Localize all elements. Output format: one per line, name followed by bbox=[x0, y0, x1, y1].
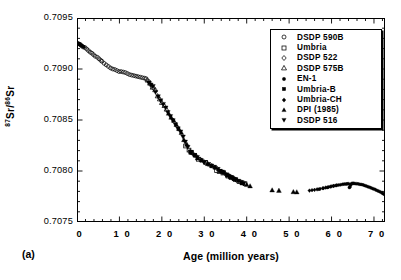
legend-item-0[interactable]: DSDP 590B bbox=[271, 32, 381, 42]
legend-label: Umbria-B bbox=[291, 85, 336, 94]
legend-label: DSDP 522 bbox=[291, 53, 338, 62]
legend-label: EN-1 bbox=[291, 74, 317, 83]
legend: DSDP 590BUmbriaDSDP 522DSDP 575BEN-1Umbr… bbox=[270, 29, 382, 129]
legend-marker-square-open-icon bbox=[277, 43, 291, 53]
legend-marker-square-filled-icon bbox=[277, 84, 291, 94]
panel-label: (a) bbox=[22, 248, 35, 260]
x-axis-label: Age (million years) bbox=[77, 250, 385, 262]
legend-item-7[interactable]: DPI (1985) bbox=[271, 105, 381, 115]
legend-item-5[interactable]: Umbria-B bbox=[271, 84, 381, 94]
series-6 bbox=[308, 183, 338, 192]
x-tick-label: 6 0 bbox=[326, 228, 344, 239]
data-point bbox=[383, 193, 385, 196]
legend-marker-diamond-open-icon bbox=[277, 53, 291, 63]
x-tick-label: 2 0 bbox=[156, 228, 174, 239]
series-0 bbox=[77, 42, 148, 81]
legend-item-8[interactable]: DSDP 516 bbox=[271, 115, 381, 125]
y-tick-label: 0.7080 bbox=[44, 165, 73, 175]
legend-marker-circle-open-icon bbox=[277, 32, 291, 42]
y-axis-label-sup-86: 86 bbox=[4, 97, 11, 105]
legend-item-1[interactable]: Umbria bbox=[271, 42, 381, 52]
x-tick-label: 4 0 bbox=[241, 228, 259, 239]
legend-label: Umbria-CH bbox=[291, 95, 342, 104]
legend-marker-diamond-filled-icon bbox=[277, 95, 291, 105]
y-axis-label-tail: Sr bbox=[5, 86, 16, 97]
legend-item-3[interactable]: DSDP 575B bbox=[271, 63, 381, 73]
x-tick-label: 3 0 bbox=[198, 228, 216, 239]
data-point bbox=[82, 45, 85, 48]
legend-item-4[interactable]: EN-1 bbox=[271, 74, 381, 84]
x-tick-label: 0 bbox=[77, 228, 84, 239]
y-tick-label: 0.7095 bbox=[44, 12, 73, 22]
series-8 bbox=[146, 81, 246, 186]
legend-marker-circle-filled-icon bbox=[277, 74, 291, 84]
y-axis-label-sup-87: 87 bbox=[4, 119, 11, 127]
legend-marker-triangle-up-filled-icon bbox=[277, 105, 291, 115]
y-axis-label-mid: Sr/ bbox=[5, 105, 16, 119]
legend-label: DSDP 516 bbox=[291, 116, 338, 125]
x-tick-label: 5 0 bbox=[283, 228, 301, 239]
data-point bbox=[270, 188, 275, 192]
data-point bbox=[294, 190, 299, 194]
legend-item-6[interactable]: Umbria-CH bbox=[271, 94, 381, 104]
legend-label: DPI (1985) bbox=[291, 105, 339, 114]
legend-label: Umbria bbox=[291, 43, 327, 52]
y-axis-label: 87Sr/86Sr bbox=[4, 58, 16, 154]
x-tick-label: 7 0 bbox=[368, 228, 386, 239]
legend-marker-triangle-down-filled-icon bbox=[277, 115, 291, 125]
data-point bbox=[277, 188, 282, 192]
strontium-isotope-figure: 0.70750.70800.70850.70900.7095 87Sr/86Sr… bbox=[0, 0, 401, 280]
legend-label: DSDP 575B bbox=[291, 64, 344, 73]
legend-item-2[interactable]: DSDP 522 bbox=[271, 53, 381, 63]
x-tick-label: 1 0 bbox=[114, 228, 132, 239]
legend-marker-triangle-up-open-icon bbox=[277, 63, 291, 73]
y-tick-label: 0.7075 bbox=[44, 216, 73, 226]
legend-label: DSDP 590B bbox=[291, 33, 344, 42]
y-tick-label: 0.7085 bbox=[44, 114, 73, 124]
series-2 bbox=[147, 79, 239, 182]
y-tick-label: 0.7090 bbox=[44, 63, 73, 73]
